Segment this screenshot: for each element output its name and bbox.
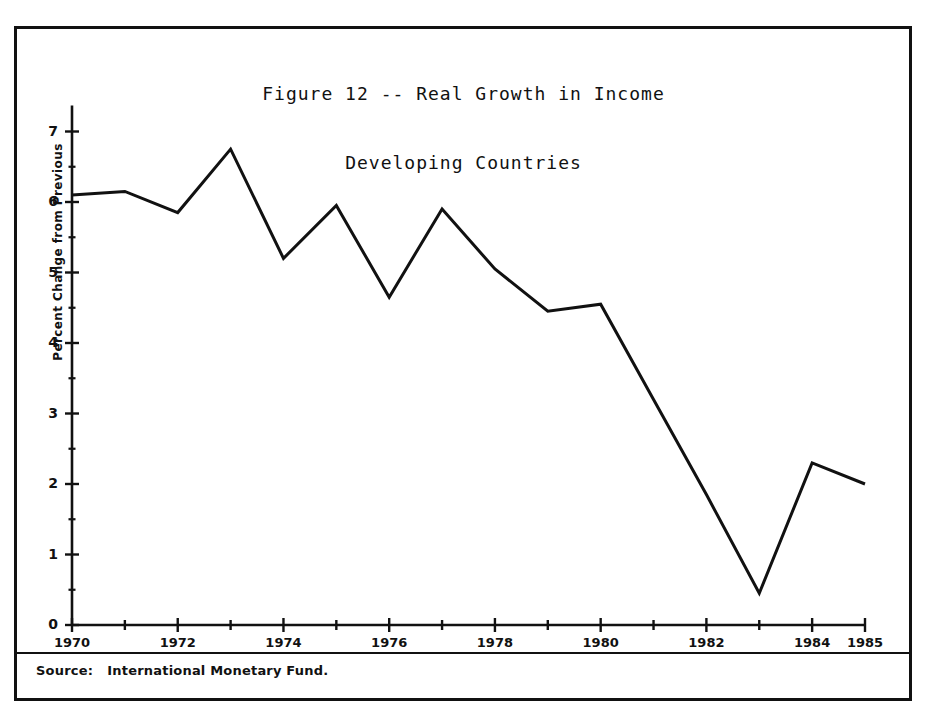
x-axis-tick-label: 1982 [676, 635, 736, 650]
x-axis-tick-label: 1978 [465, 635, 525, 650]
y-axis-tick-label: 6 [36, 193, 58, 209]
x-axis-tick-label: 1972 [148, 635, 208, 650]
figure-page: Figure 12 -- Real Growth in Income Devel… [0, 0, 927, 728]
source-note: Source: International Monetary Fund. [36, 663, 328, 678]
y-axis-tick-label: 7 [36, 123, 58, 139]
line-chart-svg [0, 0, 927, 728]
y-axis-tick-label: 2 [36, 475, 58, 491]
x-axis-tick-label: 1984 [782, 635, 842, 650]
y-axis-tick-label: 0 [36, 616, 58, 632]
plot-area: Percent Change from Previous 01234567 19… [0, 0, 927, 728]
x-axis-tick-label: 1980 [571, 635, 631, 650]
x-axis-tick-label: 1970 [42, 635, 102, 650]
x-axis-tick-label: 1985 [835, 635, 895, 650]
y-axis-tick-label: 4 [36, 334, 58, 350]
y-axis-tick-label: 3 [36, 405, 58, 421]
y-axis-tick-label: 5 [36, 264, 58, 280]
data-series-group [72, 149, 865, 593]
data-line-series [72, 149, 865, 593]
y-axis-tick-label: 1 [36, 546, 58, 562]
axes-group [65, 106, 865, 633]
x-axis-tick-label: 1976 [359, 635, 419, 650]
x-axis-tick-label: 1974 [253, 635, 313, 650]
